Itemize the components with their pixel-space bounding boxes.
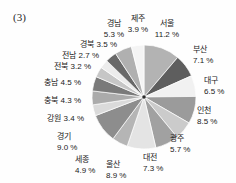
pie-center-dot — [142, 95, 146, 99]
slice-label-seoul: 서울11.2 % — [155, 18, 179, 40]
slice-label-sejong: 세종4.9 % — [75, 154, 95, 176]
slice-value: 8.5 % — [197, 116, 217, 127]
slice-name-and-value: 충남 4.5 % — [44, 78, 81, 87]
slice-value: 3.9 % — [128, 24, 148, 35]
slice-label-gyeongnam: 경남5.3 % — [104, 18, 124, 40]
slice-label-busan: 부산7.1 % — [193, 44, 213, 66]
slice-value: 5.3 % — [104, 29, 124, 40]
slice-name: 경기 — [57, 131, 77, 142]
pie-chart-container: 서울11.2 %부산7.1 %대구6.5 %인천8.5 %광주5.7 %대전7.… — [0, 0, 236, 183]
slice-name-and-value: 강원 3.4 % — [47, 114, 84, 123]
slice-name: 대전 — [143, 152, 163, 163]
slice-name: 서울 — [155, 18, 179, 29]
slice-label-jeju: 제주3.9 % — [128, 13, 148, 35]
slice-value: 7.1 % — [193, 55, 213, 66]
slice-name: 부산 — [193, 44, 213, 55]
slice-value: 7.3 % — [143, 163, 163, 174]
slice-value: 6.5 % — [204, 86, 224, 97]
slice-name-and-value: 충북 4.3 % — [44, 96, 81, 105]
slice-label-daejeon: 대전7.3 % — [143, 152, 163, 174]
figure: (3) 서울11.2 %부산7.1 %대구6.5 %인천8.5 %광주5.7 %… — [0, 0, 236, 183]
slice-label-gangwon: 강원 3.4 % — [47, 113, 84, 124]
slice-name: 세종 — [75, 154, 95, 165]
slice-label-incheon: 인천8.5 % — [197, 105, 217, 127]
slice-label-ulsan: 울산8.9 % — [106, 159, 126, 181]
slice-name: 경남 — [104, 18, 124, 29]
slice-label-chungnam: 충남 4.5 % — [44, 77, 81, 88]
slice-name-and-value: 전남 2.7 % — [62, 51, 99, 60]
slice-value: 8.9 % — [106, 170, 126, 181]
slice-label-gwangju: 광주5.7 % — [170, 133, 190, 155]
slice-name-and-value: 경북 3.5 % — [80, 40, 117, 49]
slice-label-chungbuk: 충북 4.3 % — [44, 95, 81, 106]
slice-label-gyeonggi: 경기9.0 % — [57, 131, 77, 153]
slice-label-gyeongbuk: 경북 3.5 % — [80, 39, 117, 50]
slice-name: 대구 — [204, 75, 224, 86]
slice-name: 울산 — [106, 159, 126, 170]
slice-value: 9.0 % — [57, 142, 77, 153]
slice-value: 4.9 % — [75, 165, 95, 176]
slice-label-jeonnam: 전남 2.7 % — [62, 50, 99, 61]
slice-label-daegu: 대구6.5 % — [204, 75, 224, 97]
slice-label-jeonbuk: 전북 3.2 % — [54, 61, 91, 72]
slice-name: 광주 — [170, 133, 190, 144]
slice-name: 제주 — [128, 13, 148, 24]
slice-name-and-value: 전북 3.2 % — [54, 62, 91, 71]
slice-value: 11.2 % — [155, 29, 179, 40]
slice-value: 5.7 % — [170, 144, 190, 155]
slice-name: 인천 — [197, 105, 217, 116]
